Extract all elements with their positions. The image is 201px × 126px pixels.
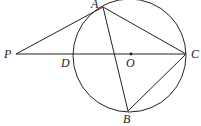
label-b: B (123, 112, 131, 126)
label-d: D (60, 56, 70, 70)
segment-ac (103, 7, 186, 54)
label-c: C (191, 47, 200, 61)
segment-bc (128, 54, 186, 111)
label-o: O (126, 56, 135, 70)
segment-ab (103, 7, 128, 111)
geometry-diagram: P A C O D B (0, 0, 201, 126)
label-a: A (90, 0, 99, 11)
segment-pa (16, 7, 103, 54)
label-p: P (3, 47, 12, 61)
center-point-o (130, 53, 133, 56)
